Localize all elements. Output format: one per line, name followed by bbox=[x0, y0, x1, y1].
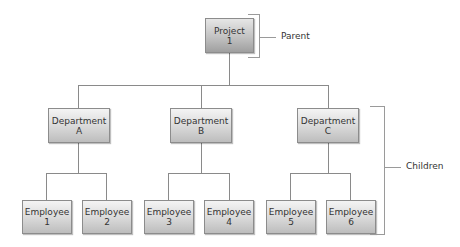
node-employee-3: Employee 3 bbox=[144, 200, 194, 234]
children-bracket-top bbox=[370, 106, 384, 107]
node-label: Department bbox=[174, 116, 228, 126]
node-employee-6: Employee 6 bbox=[326, 200, 376, 234]
node-label: 1 bbox=[44, 217, 50, 227]
node-label: Department bbox=[301, 116, 355, 126]
connector-dept-c-horizontal bbox=[290, 173, 351, 174]
connector-emp-6-up bbox=[350, 173, 351, 200]
node-label: Employee bbox=[85, 207, 130, 217]
node-label: Employee bbox=[207, 207, 252, 217]
connector-dept-c-down bbox=[328, 143, 329, 173]
connector-dept-b-horizontal bbox=[168, 173, 230, 174]
connector-emp-4-up bbox=[229, 173, 230, 200]
node-label: Employee bbox=[25, 207, 70, 217]
node-employee-1: Employee 1 bbox=[22, 200, 72, 234]
node-label: B bbox=[198, 126, 204, 136]
node-employee-5: Employee 5 bbox=[266, 200, 316, 234]
connector-emp-5-up bbox=[290, 173, 291, 200]
children-label: Children bbox=[406, 161, 443, 171]
connector-dept-a-down bbox=[78, 143, 79, 173]
connector-dept-b-down bbox=[201, 143, 202, 173]
children-bracket-bottom bbox=[370, 234, 385, 235]
connector-dept-a-up bbox=[78, 85, 79, 108]
connector-root-down bbox=[229, 53, 230, 85]
connector-emp-2-up bbox=[106, 173, 107, 200]
node-label: C bbox=[325, 126, 331, 136]
parent-label: Parent bbox=[281, 31, 310, 41]
node-label: 1 bbox=[227, 36, 233, 46]
connector-emp-1-up bbox=[46, 173, 47, 200]
node-label: A bbox=[76, 126, 82, 136]
node-department-a: Department A bbox=[48, 108, 110, 143]
children-bracket-vertical bbox=[384, 106, 385, 235]
node-label: 6 bbox=[348, 217, 354, 227]
node-label: Employee bbox=[269, 207, 314, 217]
node-label: 4 bbox=[226, 217, 232, 227]
connector-dept-b-up bbox=[201, 85, 202, 108]
node-department-b: Department B bbox=[170, 108, 232, 143]
node-department-c: Department C bbox=[297, 108, 359, 143]
children-bracket-tick bbox=[385, 167, 401, 168]
node-employee-4: Employee 4 bbox=[204, 200, 254, 234]
node-label: Employee bbox=[329, 207, 374, 217]
node-label: Employee bbox=[147, 207, 192, 217]
node-label: 5 bbox=[288, 217, 294, 227]
node-label: 3 bbox=[166, 217, 172, 227]
connector-departments-horizontal bbox=[78, 85, 329, 86]
node-label: Project bbox=[214, 26, 245, 36]
parent-bracket-bottom bbox=[248, 57, 260, 58]
node-project-1: Project 1 bbox=[205, 18, 254, 53]
parent-bracket-tick bbox=[260, 37, 276, 38]
node-label: Department bbox=[52, 116, 106, 126]
connector-dept-c-up bbox=[328, 85, 329, 108]
node-employee-2: Employee 2 bbox=[82, 200, 132, 234]
node-label: 2 bbox=[104, 217, 110, 227]
connector-emp-3-up bbox=[168, 173, 169, 200]
connector-dept-a-horizontal bbox=[46, 173, 107, 174]
parent-bracket-vertical bbox=[259, 14, 260, 58]
